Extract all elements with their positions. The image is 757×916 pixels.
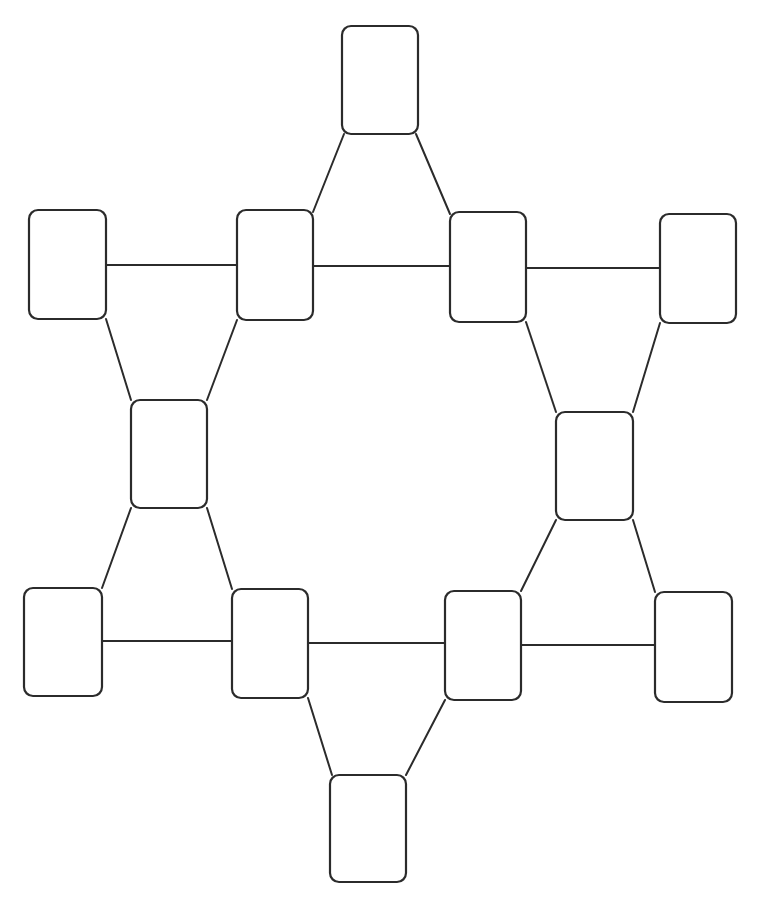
- diagram-canvas: [0, 0, 757, 916]
- node-layer: [24, 26, 736, 882]
- node-n-row3-left[interactable]: [232, 589, 308, 698]
- node-box-n-top[interactable]: [342, 26, 418, 134]
- connector-e-midright-to-row3-right: [521, 520, 556, 591]
- node-box-n-row1-left[interactable]: [237, 210, 313, 320]
- connector-e-top-to-row1-left: [313, 134, 344, 212]
- node-box-n-mid-left[interactable]: [131, 400, 207, 508]
- node-n-row1-far-left[interactable]: [29, 210, 106, 319]
- node-n-row1-far-right[interactable]: [660, 214, 736, 323]
- connector-e-midright-to-row3-farright: [633, 520, 655, 592]
- node-n-row3-far-right[interactable]: [655, 592, 732, 702]
- node-link-diagram: [0, 0, 757, 916]
- node-box-n-row1-far-left[interactable]: [29, 210, 106, 319]
- connector-e-top-to-row1-right: [416, 134, 450, 214]
- node-box-n-row3-right[interactable]: [445, 591, 521, 700]
- connector-e-row3-left-to-bottom: [308, 698, 332, 775]
- node-box-n-bottom[interactable]: [330, 775, 406, 882]
- node-box-n-row3-far-right[interactable]: [655, 592, 732, 702]
- node-box-n-row3-far-left[interactable]: [24, 588, 102, 696]
- node-n-row3-right[interactable]: [445, 591, 521, 700]
- connector-e-row1-left-to-midleft: [207, 320, 237, 400]
- node-n-row3-far-left[interactable]: [24, 588, 102, 696]
- node-n-row1-left[interactable]: [237, 210, 313, 320]
- node-n-mid-right[interactable]: [556, 412, 633, 520]
- node-box-n-row1-far-right[interactable]: [660, 214, 736, 323]
- node-box-n-row1-right[interactable]: [450, 212, 526, 322]
- node-n-top[interactable]: [342, 26, 418, 134]
- connector-e-row3-right-to-bottom: [406, 700, 445, 775]
- node-box-n-row3-left[interactable]: [232, 589, 308, 698]
- connector-e-midleft-to-row3-left: [207, 508, 232, 589]
- connector-e-row1-farleft-to-midleft: [106, 319, 131, 400]
- connector-e-row1-right-to-midright: [526, 322, 556, 412]
- node-n-mid-left[interactable]: [131, 400, 207, 508]
- connector-e-row1-farright-to-midright: [633, 323, 660, 412]
- node-n-bottom[interactable]: [330, 775, 406, 882]
- node-box-n-mid-right[interactable]: [556, 412, 633, 520]
- node-n-row1-right[interactable]: [450, 212, 526, 322]
- connector-e-midleft-to-row3-farleft: [102, 508, 131, 588]
